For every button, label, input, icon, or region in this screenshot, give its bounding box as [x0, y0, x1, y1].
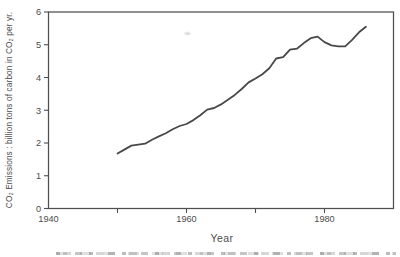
y-axis-ticks [44, 12, 49, 209]
y-tick-label: 6 [36, 7, 41, 17]
y-axis-tick-labels: 0123456 [36, 7, 41, 214]
x-axis-tick-labels: 194019601980 [38, 214, 334, 224]
scan-smudge [183, 31, 192, 36]
y-tick-label: 5 [36, 40, 41, 50]
y-tick-label: 4 [36, 73, 41, 83]
emissions-line-series [118, 27, 366, 154]
axes-frame [49, 12, 394, 209]
x-tick-label: 1960 [176, 214, 196, 224]
x-tick-label: 1980 [314, 214, 334, 224]
cropped-caption-strip [56, 252, 396, 255]
plot-area: 0123456 194019601980 [0, 0, 400, 257]
y-tick-label: 2 [36, 138, 41, 148]
y-tick-label: 0 [36, 204, 41, 214]
co2-emissions-figure: 0123456 194019601980 CO₂ Emissions : bil… [0, 0, 400, 257]
plot-frame [49, 12, 394, 209]
x-axis-title: Year [211, 232, 234, 244]
y-tick-label: 1 [36, 171, 41, 181]
y-axis-title: CO₂ Emissions : billion tons of carbon i… [5, 12, 14, 208]
emissions-line [118, 27, 366, 154]
x-axis-ticks [118, 209, 325, 214]
y-tick-label: 3 [36, 106, 41, 116]
x-tick-label: 1940 [38, 214, 58, 224]
